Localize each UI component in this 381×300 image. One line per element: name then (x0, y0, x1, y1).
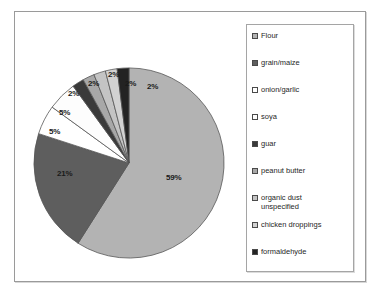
legend-item: chicken droppings (252, 220, 350, 247)
slice-percentage-label: 2% (147, 83, 158, 91)
legend-item-label: guar (261, 139, 276, 148)
plot-area: 59%21%5%5%2%2%2%2%2% (14, 40, 244, 280)
legend-item-label: soya (261, 112, 277, 121)
legend-swatch-icon (252, 141, 258, 147)
legend-swatch-icon (252, 60, 258, 66)
slice-percentage-label: 2% (68, 90, 79, 98)
legend-item-label: Flour (261, 31, 278, 40)
legend-item: grain/maize (252, 58, 350, 85)
slice-percentage-label: 5% (59, 109, 70, 117)
pie-svg (31, 65, 227, 261)
legend-item-list: Flourgrain/maizeonion/garlicsoyaguarpean… (252, 31, 350, 274)
legend-item: guar (252, 139, 350, 166)
legend-item-label: grain/maize (261, 58, 300, 67)
legend-swatch-icon (252, 168, 258, 174)
slice-percentage-label: 2% (108, 71, 119, 79)
legend-item: formaldehyde (252, 247, 350, 274)
legend-swatch-icon (252, 249, 258, 255)
pie-chart-figure: 59%21%5%5%2%2%2%2%2% Flourgrain/maizeoni… (0, 0, 381, 300)
legend-item: organic dust unspecified (252, 193, 350, 220)
legend-swatch-icon (252, 114, 258, 120)
legend-item-label: chicken droppings (261, 220, 321, 229)
legend-swatch-icon (252, 195, 258, 201)
slice-percentage-label: 21% (57, 170, 72, 178)
slice-percentage-label: 5% (49, 128, 60, 136)
legend: Flourgrain/maizeonion/garlicsoyaguarpean… (246, 24, 354, 272)
slice-percentage-label: 2% (88, 80, 99, 88)
legend-item: peanut butter (252, 166, 350, 193)
legend-item-label: organic dust unspecified (261, 193, 302, 211)
pie-slice-group (34, 68, 224, 258)
legend-swatch-icon (252, 33, 258, 39)
legend-item: onion/garlic (252, 85, 350, 112)
legend-swatch-icon (252, 222, 258, 228)
legend-item-label: peanut butter (261, 166, 305, 175)
slice-percentage-label: 2% (125, 80, 136, 88)
pie-graphic (31, 65, 227, 261)
legend-item-label: formaldehyde (261, 247, 306, 256)
legend-item: soya (252, 112, 350, 139)
legend-item-label: onion/garlic (261, 85, 299, 94)
slice-percentage-label: 59% (166, 174, 181, 182)
legend-swatch-icon (252, 87, 258, 93)
legend-item: Flour (252, 31, 350, 58)
